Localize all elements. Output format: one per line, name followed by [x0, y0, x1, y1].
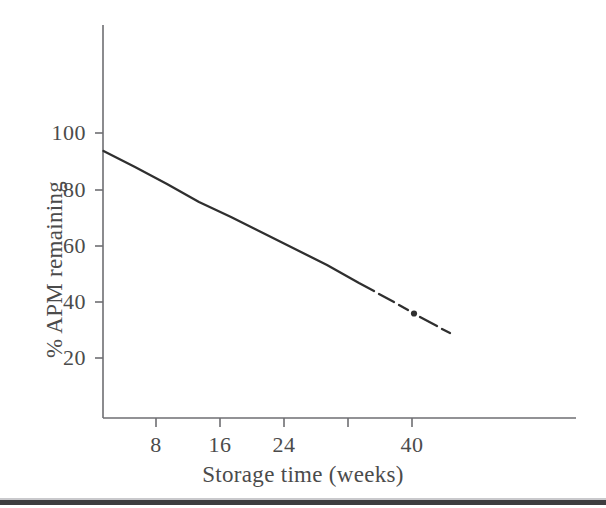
chart-plot-area [0, 0, 606, 508]
series-segment-main [104, 151, 375, 291]
series-segment-c [399, 305, 408, 310]
series-segment-e [442, 329, 450, 333]
bottom-rule-dark [0, 500, 606, 505]
x-tick-label-16: 16 [209, 432, 232, 458]
series-marker-dot [411, 310, 417, 316]
chart-figure: 100 80 60 40 20 8 16 24 40 Storage time … [0, 0, 606, 508]
y-tick-label-100: 100 [22, 120, 86, 146]
x-tick-label-24: 24 [273, 432, 296, 458]
series-segment-b [379, 294, 394, 302]
series-apm-remaining [104, 151, 451, 333]
x-tick-label-8: 8 [150, 432, 162, 458]
x-axis-title: Storage time (weeks) [0, 462, 606, 488]
series-segment-d [420, 317, 437, 326]
y-axis-title: % APM remaining [42, 181, 68, 358]
y-axis-ticks [95, 133, 103, 358]
x-tick-label-40: 40 [401, 432, 424, 458]
x-axis-ticks [156, 418, 412, 427]
